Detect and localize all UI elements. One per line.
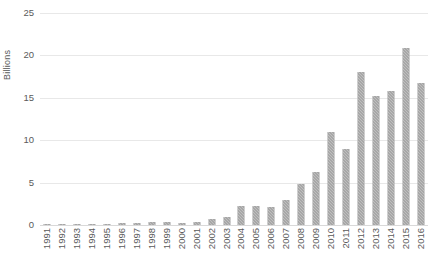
bar-slot: [115, 13, 130, 225]
bar: [74, 224, 81, 225]
x-axis-tick-label: 2000: [177, 228, 187, 249]
bar: [357, 72, 364, 225]
x-axis-tick-label: 1994: [87, 228, 97, 249]
bar: [268, 207, 275, 225]
x-axis-tick-label: 2004: [236, 228, 246, 249]
x-axis-tick-label: 2002: [207, 228, 217, 249]
x-axis-tick-labels: 1991199219931994199519961997199819992000…: [40, 228, 428, 274]
x-axis-tick-label: 2016: [416, 228, 426, 249]
x-axis-tick-label: 2001: [192, 228, 202, 249]
bar-chart: Billions 0510152025 19911992199319941995…: [0, 0, 433, 275]
x-axis-tick-label: 1993: [72, 228, 82, 249]
bar-slot: [100, 13, 115, 225]
bar: [342, 149, 349, 225]
bar-slot: [324, 13, 339, 225]
plot-area: [40, 13, 428, 225]
bar: [372, 96, 379, 225]
bar-slot: [234, 13, 249, 225]
bar-slot: [294, 13, 309, 225]
bar-slot: [189, 13, 204, 225]
bar: [163, 222, 170, 225]
bar: [402, 48, 409, 225]
y-axis-tick-label: 25: [6, 8, 34, 18]
x-axis-tick-label: 2006: [266, 228, 276, 249]
bar-slot: [55, 13, 70, 225]
bar: [283, 200, 290, 225]
x-axis-tick-label: 2015: [401, 228, 411, 249]
bar-slot: [219, 13, 234, 225]
y-axis-tick-label: 10: [6, 135, 34, 145]
bar: [89, 224, 96, 225]
x-axis-tick-label: 2009: [311, 228, 321, 249]
bar-slot: [159, 13, 174, 225]
x-axis-tick-label: 1996: [117, 228, 127, 249]
bar-slot: [174, 13, 189, 225]
x-axis-tick-label: 2011: [341, 228, 351, 248]
gridline: [40, 225, 428, 226]
bar: [313, 172, 320, 225]
bar-slot: [40, 13, 55, 225]
bar: [298, 184, 305, 225]
bar-slot: [398, 13, 413, 225]
y-axis-tick-label: 15: [6, 93, 34, 103]
x-axis-tick-label: 1997: [132, 228, 142, 249]
bar: [238, 206, 245, 226]
x-axis-tick-label: 2014: [386, 228, 396, 249]
bar-slot: [413, 13, 428, 225]
x-axis-tick-label: 1999: [162, 228, 172, 249]
y-axis-tick-label: 5: [6, 178, 34, 188]
y-axis-title: Billions: [2, 30, 16, 100]
y-axis-tick-label: 20: [6, 50, 34, 60]
x-axis-tick-label: 2007: [281, 228, 291, 249]
bar: [133, 223, 140, 225]
x-axis-tick-label: 1992: [57, 228, 67, 249]
x-axis-tick-label: 2008: [296, 228, 306, 249]
bars-layer: [40, 13, 428, 225]
bar: [223, 217, 230, 225]
bar: [119, 223, 126, 225]
x-axis-tick-label: 2013: [371, 228, 381, 249]
bar-slot: [264, 13, 279, 225]
y-axis-tick-label: 0: [6, 220, 34, 230]
bar: [44, 224, 51, 225]
bar-slot: [249, 13, 264, 225]
bar-slot: [70, 13, 85, 225]
bar-slot: [309, 13, 324, 225]
bar: [148, 222, 155, 225]
x-axis-tick-label: 2003: [222, 228, 232, 249]
bar: [417, 83, 424, 225]
bar-slot: [383, 13, 398, 225]
x-axis-tick-label: 2005: [251, 228, 261, 249]
bar-slot: [353, 13, 368, 225]
bar: [253, 206, 260, 226]
bar-slot: [368, 13, 383, 225]
bar-slot: [130, 13, 145, 225]
bar-slot: [279, 13, 294, 225]
bar: [178, 223, 185, 225]
bar: [104, 224, 111, 225]
x-axis-tick-label: 2010: [326, 228, 336, 249]
bar: [59, 224, 66, 225]
bar: [193, 222, 200, 225]
bar-slot: [85, 13, 100, 225]
x-axis-tick-label: 1995: [102, 228, 112, 249]
x-axis-tick-label: 1998: [147, 228, 157, 249]
bar-slot: [144, 13, 159, 225]
bar: [327, 132, 334, 225]
x-axis-tick-label: 1991: [42, 228, 52, 249]
bar-slot: [204, 13, 219, 225]
bar: [208, 219, 215, 225]
bar: [387, 91, 394, 225]
x-axis-tick-label: 2012: [356, 228, 366, 249]
bar-slot: [338, 13, 353, 225]
